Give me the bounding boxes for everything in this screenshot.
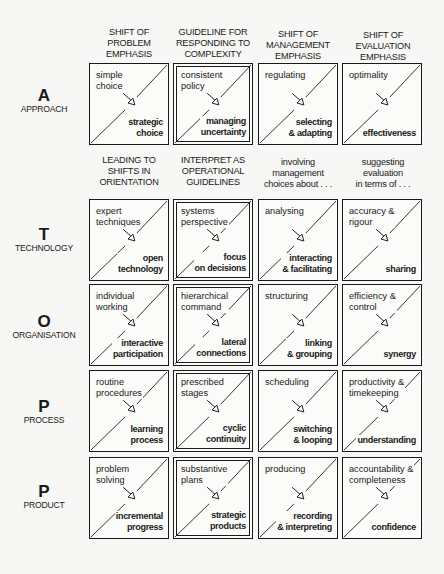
- transition-arrow-icon: [292, 229, 304, 241]
- row-label-technology: T TECHNOLOGY: [0, 227, 88, 253]
- matrix-cell-approach-4: optimalityeffectiveness: [342, 63, 422, 145]
- cell-from-text: consistent policy: [181, 70, 223, 92]
- transition-arrow-icon: [123, 314, 135, 326]
- cell-to-text: lateral connections: [195, 337, 246, 359]
- cell-from-text: producing: [265, 464, 306, 475]
- row-label-process: P PROCESS: [0, 399, 88, 425]
- cell-to-text: linking & grouping: [286, 338, 332, 360]
- cell-to-text: confidence: [370, 522, 416, 533]
- cell-from-text: problem solving: [96, 464, 130, 486]
- cell-from-text: routine procedures: [96, 377, 143, 399]
- cell-to-text: strategic products: [209, 510, 246, 532]
- cell-to-text: learning process: [129, 424, 163, 446]
- cell-to-text: cyclic continuity: [205, 423, 246, 445]
- cell-to-text: switching & looping: [292, 424, 332, 446]
- cell-to-text: sharing: [385, 264, 416, 275]
- cell-to-text: selecting & adapting: [288, 117, 333, 139]
- row-word: APPROACH: [0, 104, 88, 114]
- cell-from-text: optimality: [349, 70, 389, 81]
- matrix-cell-organisation-3: structuringlinking & grouping: [258, 284, 338, 366]
- matrix-cell-organisation-1: individual workinginteractive participat…: [89, 284, 169, 366]
- transition-arrow-icon: [292, 487, 304, 499]
- matrix-cell-approach-2: consistent policymanaging uncertainty: [173, 63, 253, 145]
- cell-from-text: productivity & timekeeping: [349, 377, 405, 399]
- row-letter: P: [0, 399, 88, 415]
- row-word: TECHNOLOGY: [0, 243, 88, 253]
- cell-to-text: effectiveness: [362, 128, 416, 139]
- cell-from-text: accuracy & rigour: [349, 206, 395, 228]
- subheader-leading-to-shifts: LEADING TO SHIFTS IN ORIENTATION: [87, 155, 171, 188]
- column-header-problem-emphasis: SHIFT OF PROBLEM EMPHASIS: [87, 27, 171, 60]
- cell-to-text: open technology: [117, 253, 163, 275]
- cell-from-text: expert techniques: [96, 206, 141, 228]
- row-letter: A: [0, 88, 88, 104]
- transition-arrow-icon: [292, 314, 304, 326]
- cell-to-text: managing uncertainty: [200, 116, 246, 138]
- column-header-guideline-complexity: GUIDELINE FOR RESPONDING TO COMPLEXITY: [171, 27, 255, 60]
- matrix-cell-technology-4: accuracy & rigoursharing: [342, 199, 422, 281]
- row-letter: O: [0, 314, 88, 330]
- subheader-evaluation-terms: suggesting evaluation in terms of . . .: [341, 157, 425, 190]
- cell-to-text: understanding: [356, 435, 416, 446]
- cell-to-text: strategic choice: [127, 117, 163, 139]
- transition-arrow-icon: [123, 229, 135, 241]
- matrix-cell-product-2: substantive plansstrategic products: [173, 457, 253, 539]
- transition-arrow-icon: [376, 400, 388, 412]
- transition-arrow-icon: [376, 487, 388, 499]
- transition-arrow-icon: [292, 400, 304, 412]
- matrix-cell-technology-1: expert techniquesopen technology: [89, 199, 169, 281]
- row-label-product: P PRODUCT: [0, 484, 88, 510]
- matrix-cell-technology-2: systems perspectivefocus on decisions: [173, 199, 253, 281]
- cell-to-text: synergy: [383, 349, 416, 360]
- transition-arrow-icon: [207, 93, 219, 105]
- matrix-cell-process-1: routine procedureslearning process: [89, 370, 169, 452]
- transition-arrow-icon: [376, 93, 388, 105]
- cell-to-text: focus on decisions: [194, 252, 246, 274]
- cell-to-text: incremental progress: [115, 511, 163, 533]
- cell-from-text: regulating: [265, 70, 306, 81]
- transition-arrow-icon: [123, 400, 135, 412]
- matrix-cell-approach-3: regulatingselecting & adapting: [258, 63, 338, 145]
- transition-arrow-icon: [207, 487, 219, 499]
- cell-from-text: prescribed stages: [181, 377, 225, 399]
- transition-arrow-icon: [292, 93, 304, 105]
- cell-from-text: substantive plans: [181, 464, 228, 486]
- cell-to-text: recording & interpreting: [276, 511, 332, 533]
- matrix-cell-process-4: productivity & timekeepingunderstanding: [342, 370, 422, 452]
- row-word: PROCESS: [0, 415, 88, 425]
- row-word: PRODUCT: [0, 500, 88, 510]
- matrix-cell-product-3: producingrecording & interpreting: [258, 457, 338, 539]
- subheader-interpret-guidelines: INTERPRET AS OPERATIONAL GUIDELINES: [171, 155, 255, 188]
- transition-arrow-icon: [376, 229, 388, 241]
- matrix-cell-technology-3: analysinginteracting & facilitating: [258, 199, 338, 281]
- row-letter: T: [0, 227, 88, 243]
- row-word: ORGANISATION: [0, 330, 88, 340]
- cell-from-text: scheduling: [265, 377, 310, 388]
- cell-from-text: accountability & completeness: [349, 464, 414, 486]
- row-letter: P: [0, 484, 88, 500]
- transition-arrow-icon: [123, 93, 135, 105]
- matrix-cell-organisation-2: hierarchical commandlateral connections: [173, 284, 253, 366]
- matrix-cell-product-4: accountability & completenessconfidence: [342, 457, 422, 539]
- matrix-cell-process-3: schedulingswitching & looping: [258, 370, 338, 452]
- cell-from-text: hierarchical command: [181, 291, 229, 313]
- cell-from-text: efficiency & control: [349, 291, 397, 313]
- matrix-cell-product-1: problem solvingincremental progress: [89, 457, 169, 539]
- cell-from-text: systems perspective: [181, 206, 229, 228]
- matrix-cell-organisation-4: efficiency & controlsynergy: [342, 284, 422, 366]
- transition-arrow-icon: [376, 314, 388, 326]
- matrix-cell-process-2: prescribed stagescyclic continuity: [173, 370, 253, 452]
- subheader-management-choices: involving management choices about . . .: [256, 157, 340, 190]
- cell-to-text: interactive participation: [112, 338, 163, 360]
- transition-arrow-icon: [123, 487, 135, 499]
- row-label-organisation: O ORGANISATION: [0, 314, 88, 340]
- transition-arrow-icon: [207, 229, 219, 241]
- matrix-cell-approach-1: simple choicestrategic choice: [89, 63, 169, 145]
- column-header-management-emphasis: SHIFT OF MANAGEMENT EMPHASIS: [256, 29, 340, 62]
- transition-arrow-icon: [207, 400, 219, 412]
- row-label-approach: A APPROACH: [0, 88, 88, 114]
- cell-from-text: simple choice: [96, 70, 124, 92]
- cell-from-text: individual working: [96, 291, 135, 313]
- cell-to-text: interacting & facilitating: [281, 253, 332, 275]
- column-header-evaluation-emphasis: SHIFT OF EVALUATION EMPHASIS: [341, 30, 425, 63]
